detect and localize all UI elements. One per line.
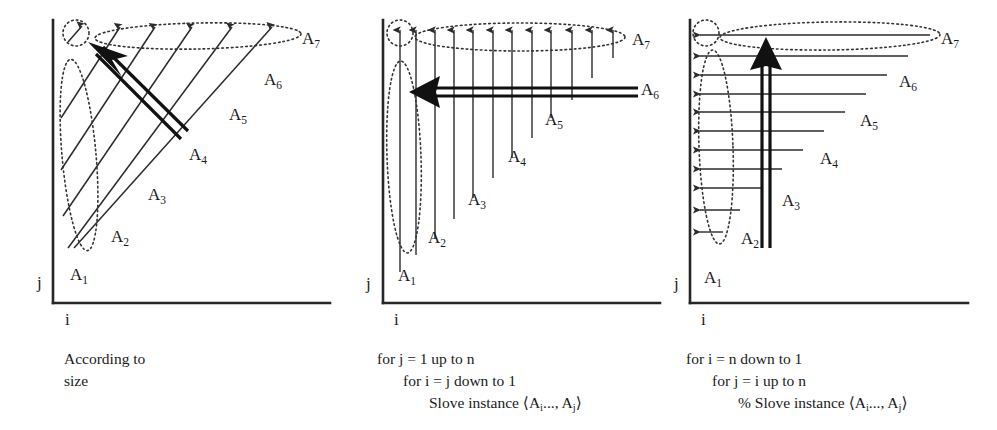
dotted-ellipse-row-p3: [720, 20, 940, 51]
caption-p2-line3-pre: Slove instance ⟨A: [429, 394, 540, 411]
dotted-circle-first-p3: [693, 20, 719, 46]
wavefront-5: [68, 27, 232, 248]
row-lines-p3: [700, 35, 930, 232]
label-a1-p3: A1: [704, 268, 722, 289]
axis-label-i-p1: i: [65, 310, 70, 329]
caption-p3-line3-pre: % Slove instance ⟨A: [738, 394, 866, 411]
caption-p1-line1: According to: [64, 348, 145, 370]
label-a4-p3: A4: [820, 149, 838, 170]
caption-p2-line2: for i = j down to 1: [403, 370, 516, 392]
label-a5-p3: A5: [860, 111, 878, 132]
sweep-arrow-shaft-b-p1: [103, 47, 188, 131]
caption-p3-line1: for i = n down to 1: [686, 348, 802, 370]
sweep-arrow-head-p1: [88, 42, 128, 77]
caption-p2-line3: Slove instance ⟨Ai..., Aj⟩: [429, 392, 582, 419]
axis-label-j-p3: j: [673, 274, 679, 293]
label-a6-p2: A6: [641, 80, 659, 101]
axis-label-j-p2: j: [365, 274, 371, 293]
caption-p3-line3-mid: ..., A: [869, 394, 899, 411]
label-a1-p2: A1: [398, 266, 416, 287]
label-a3-p1: A3: [148, 185, 166, 206]
dotted-ellipse-diagonal-p1: [95, 21, 301, 51]
label-a3-p2: A3: [468, 190, 486, 211]
label-a1-p1: A1: [70, 265, 88, 286]
label-a3-p3: A3: [782, 191, 800, 212]
label-a4-p2: A4: [508, 147, 526, 168]
wavefront-1: [68, 26, 82, 42]
sweep-arrow-p2: [409, 76, 638, 108]
label-a2-p1: A2: [111, 227, 129, 248]
axis-label-i-p3: i: [701, 310, 706, 329]
dotted-ellipse-row-p2: [415, 23, 625, 51]
label-a2-p3: A2: [741, 229, 759, 250]
figure-canvas: A1 A2 A3 A4 A5 A6 A7 j i: [0, 0, 997, 430]
caption-p2-line3-mid: ..., A: [543, 394, 573, 411]
panel-columns: A1 A2 A3 A4 A5 A6 A7 j i: [365, 20, 660, 329]
label-a6-p1: A6: [264, 70, 282, 91]
axis-label-j-p1: j: [36, 273, 42, 292]
caption-p2-line1: for j = 1 up to n: [377, 348, 474, 370]
label-a7-p2: A7: [632, 30, 650, 51]
dotted-ellipse-column-p3: [696, 49, 737, 244]
caption-p3-line3: % Slove instance ⟨Ai..., Aj⟩: [738, 392, 908, 419]
axis-label-i-p2: i: [394, 310, 399, 329]
caption-p2-line3-post: ⟩: [576, 394, 582, 411]
label-a6-p3: A6: [899, 72, 917, 93]
figure-vector-layer: A1 A2 A3 A4 A5 A6 A7 j i: [0, 0, 997, 430]
sweep-arrow-head-p3: [750, 37, 782, 70]
label-a7-p3: A7: [941, 29, 959, 50]
label-a5-p2: A5: [545, 110, 563, 131]
label-a4-p1: A4: [189, 145, 207, 166]
caption-p1-line2: size: [64, 370, 88, 392]
sweep-arrow-p3: [750, 37, 782, 248]
label-a2-p2: A2: [428, 228, 446, 249]
diagonal-wavefronts-p1: [61, 26, 272, 248]
panel-rows: A1 A2 A3 A4 A5 A6 A7 j i: [673, 20, 968, 329]
panel-diagonal: A1 A2 A3 A4 A5 A6 A7 j i: [36, 20, 330, 329]
caption-p3-line2: for j = i up to n: [712, 370, 806, 392]
caption-p3-line3-post: ⟩: [901, 394, 907, 411]
sweep-arrow-head-p2: [409, 76, 440, 108]
label-a5-p1: A5: [229, 105, 247, 126]
label-a7-p1: A7: [302, 29, 320, 50]
sweep-arrow-p1: [88, 42, 188, 139]
